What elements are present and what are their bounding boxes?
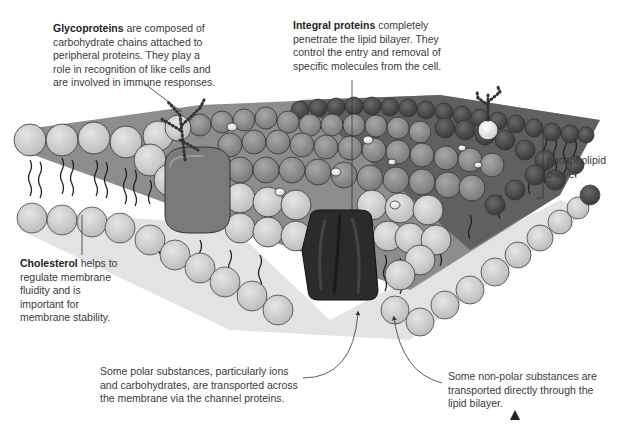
glycoproteins-label: Glycoproteins are composed of carbohydra… (53, 22, 218, 90)
cholesterol-label: Cholesterol helps to regulate membrane f… (20, 257, 125, 325)
polar-transport-label: Some polar substances, particularly ions… (100, 365, 300, 406)
phospholipid-bilayer-label: phospholipid bilayer (547, 154, 607, 181)
channel-protein (302, 210, 378, 300)
integral-proteins-label: Integral proteins completely penetrate t… (293, 19, 468, 73)
nonpolar-transport-label: Some non-polar substances are transporte… (448, 370, 598, 411)
nav-triangle-marker (510, 410, 520, 420)
